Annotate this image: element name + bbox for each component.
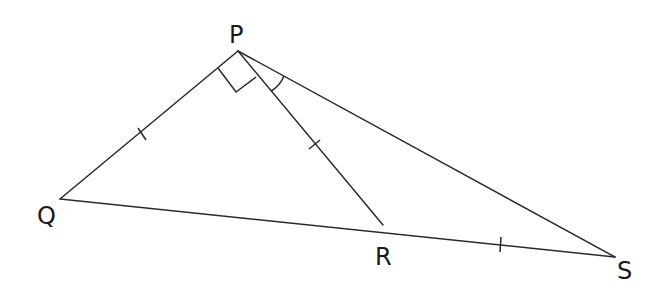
segment-ps: [238, 51, 615, 257]
angle-arc-rps: [271, 76, 284, 91]
triangle-diagram: P Q R S: [0, 0, 660, 299]
segment-pq: [60, 51, 238, 199]
segment-pr: [238, 51, 383, 225]
label-q: Q: [37, 202, 56, 230]
label-r: R: [375, 243, 392, 271]
label-p: P: [229, 21, 243, 49]
segment-qs: [60, 199, 615, 257]
right-angle-marker: [218, 68, 256, 92]
label-s: S: [617, 257, 632, 285]
tick-mark-rs: [500, 237, 501, 252]
